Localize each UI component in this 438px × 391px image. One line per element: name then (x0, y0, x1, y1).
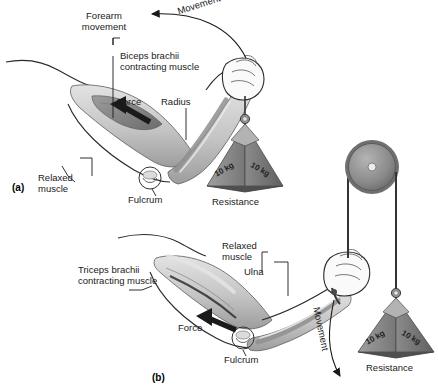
fist-b (324, 249, 370, 296)
panel-label-b: (b) (152, 372, 165, 383)
label-ulna: Ulna (244, 266, 264, 277)
label-fulcrum-b: Fulcrum (224, 354, 258, 365)
fist-a (222, 55, 264, 100)
label-resistance-b: Resistance (366, 362, 413, 373)
weight-b (358, 298, 434, 358)
label-relaxed-muscle-a: Relaxed muscle (38, 172, 73, 194)
pulley (345, 140, 399, 194)
label-force-b: Force (178, 322, 202, 333)
label-fulcrum-a: Fulcrum (128, 194, 162, 205)
label-resistance-a: Resistance (212, 196, 259, 207)
label-radius: Radius (161, 96, 191, 107)
label-relaxed-muscle-b: Relaxed muscle (222, 240, 257, 262)
panel-label-a: (a) (12, 182, 24, 193)
label-triceps-brachii: Triceps brachii contracting muscle (78, 264, 157, 286)
label-biceps-brachii: Biceps brachii contracting muscle (120, 50, 199, 72)
panel-a-artwork (6, 14, 283, 196)
label-force-a: Force (117, 96, 141, 107)
label-forearm-movement: Forearm movement (72, 10, 136, 32)
figure-canvas: Forearm movement Movement Biceps brachii… (0, 0, 438, 391)
